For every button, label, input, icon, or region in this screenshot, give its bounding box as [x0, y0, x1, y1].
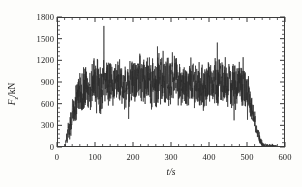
x-axis-title: t/s: [167, 167, 176, 177]
y-axis-symbol: F: [7, 99, 17, 105]
x-tick-label-0: 0: [55, 153, 59, 162]
x-tick-label-400: 400: [202, 153, 215, 162]
x-tick-label-100: 100: [88, 153, 101, 162]
x-tick-label-500: 500: [240, 153, 253, 162]
y-tick-label-0: 0: [28, 143, 54, 152]
x-tick-label-300: 300: [164, 153, 177, 162]
y-axis-unit: /kN: [7, 82, 17, 96]
x-tick-label-600: 600: [278, 153, 291, 162]
y-tick-label-1500: 1500: [28, 34, 54, 43]
y-tick-label-900: 900: [28, 78, 54, 87]
y-tick-label-600: 600: [28, 99, 54, 108]
force-time-series-curve: [58, 18, 285, 147]
figure-container: 1800 1500 1200 900 600 300 0 0 100 200 3…: [0, 0, 302, 187]
x-tick-label-200: 200: [126, 153, 139, 162]
plot-area: [57, 17, 285, 147]
y-axis-title: Fz/kN: [7, 82, 19, 105]
y-tick-label-1800: 1800: [28, 13, 54, 22]
y-tick-label-1200: 1200: [28, 56, 54, 65]
y-tick-label-300: 300: [28, 121, 54, 130]
